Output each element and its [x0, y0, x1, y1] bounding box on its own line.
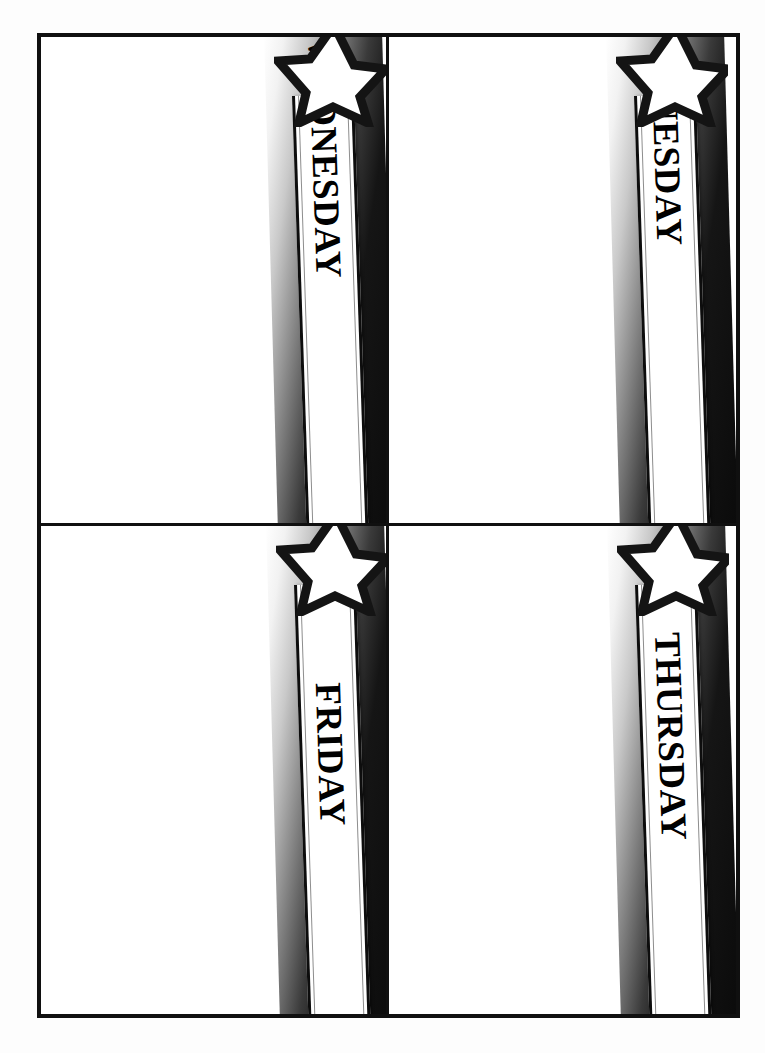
five-point-star-icon: [274, 37, 386, 127]
day-card-friday[interactable]: FRIDAY: [41, 526, 389, 1015]
day-card-thursday[interactable]: THURSDAY: [389, 526, 737, 1015]
page-canvas: WEDNESDAY TUESDAY: [0, 0, 765, 1053]
five-point-star-icon: [276, 526, 388, 616]
day-card-wednesday[interactable]: WEDNESDAY: [41, 37, 389, 526]
five-point-star-icon: [616, 37, 728, 127]
card-grid-frame: WEDNESDAY TUESDAY: [37, 33, 740, 1018]
day-card-tuesday[interactable]: TUESDAY: [389, 37, 737, 526]
five-point-star-icon: [617, 526, 729, 616]
